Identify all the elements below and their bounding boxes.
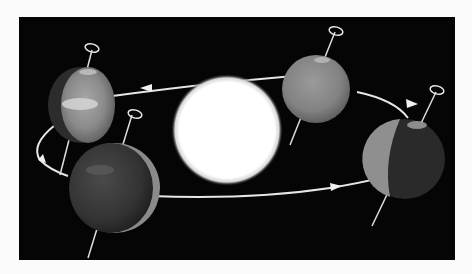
sun [171, 74, 283, 186]
earth-right [362, 84, 445, 226]
axis-rotation-icon [429, 84, 445, 95]
axis-rotation-icon [328, 25, 344, 36]
orbit-diagram [0, 0, 472, 274]
axis-rotation-icon [127, 108, 143, 119]
earth-top-right [282, 25, 350, 145]
axis-rotation-icon [84, 42, 100, 53]
orbit-arrow-icon [406, 99, 418, 108]
